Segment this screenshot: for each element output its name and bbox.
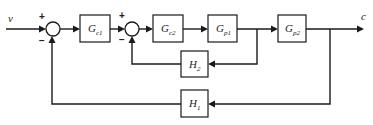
sum1-minus-sign: − (39, 35, 45, 46)
gp1-label: G (216, 22, 224, 34)
arrow-icon (129, 36, 136, 43)
block-gc2: G c2 (153, 15, 183, 42)
gc2-subscript: c2 (169, 29, 176, 37)
sum2-minus-sign: − (119, 34, 125, 45)
arrow-icon (208, 101, 215, 108)
gc1-subscript: c1 (96, 29, 103, 37)
gc2-label: G (161, 22, 169, 34)
output-label: c (361, 10, 366, 22)
arrow-icon (271, 26, 278, 33)
sum1-plus-sign: + (39, 11, 45, 22)
input-label: v (8, 12, 13, 24)
block-gp1: G p1 (208, 15, 237, 42)
block-gc1: G c1 (80, 15, 110, 42)
sum2-plus-sign: + (119, 10, 125, 21)
gc1-label: G (88, 22, 96, 34)
block-gp2: G p2 (278, 15, 306, 42)
arrow-icon (73, 26, 80, 33)
inner-feedback-path: H 2 (129, 29, 258, 77)
arrow-icon (146, 26, 153, 33)
gp2-label: G (285, 22, 293, 34)
arrow-icon (49, 36, 56, 43)
arrow-icon (201, 26, 208, 33)
gp2-subscript: p2 (292, 29, 301, 37)
output-signal: c (306, 10, 366, 33)
gp1-subscript: p1 (223, 29, 231, 37)
block-diagram: v + − G c1 + − G c2 G p1 (0, 0, 373, 125)
arrow-icon (357, 26, 364, 33)
h2-subscript: 2 (197, 65, 201, 73)
h1-subscript: 1 (197, 104, 201, 112)
arrow-icon (39, 26, 46, 33)
arrow-icon (118, 26, 125, 33)
arrow-icon (208, 61, 215, 68)
